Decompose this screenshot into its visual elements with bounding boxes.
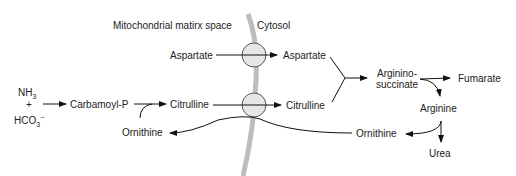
argininosuccinate-line1: Arginino- <box>377 68 417 79</box>
node-carbamoyl-phosphate: Carbamoyl-P <box>70 99 128 110</box>
node-urea: Urea <box>429 148 451 159</box>
hco3-text: HCO <box>14 115 36 126</box>
region-label-matrix: Mitochondrial matirx space <box>113 20 232 31</box>
hco3-subscript: 3 <box>36 121 40 128</box>
node-ornithine-cytosol: Ornithine <box>356 128 397 139</box>
nh3-subscript: 3 <box>32 93 36 100</box>
node-aspartate-cytosol: Aspartate <box>283 50 326 61</box>
hco3-superscript: − <box>40 114 44 121</box>
node-argininosuccinate: Arginino-succinate <box>372 68 422 90</box>
node-hco3: HCO3− <box>14 112 44 130</box>
node-citrulline-matrix: Citrulline <box>170 99 209 110</box>
node-arginine: Arginine <box>420 103 457 114</box>
urea-cycle-diagram: Mitochondrial matirx space Cytosol Aspar… <box>0 0 516 176</box>
node-citrulline-cytosol: Citrulline <box>286 100 325 111</box>
node-fumarate: Fumarate <box>458 73 501 84</box>
node-aspartate-matrix: Aspartate <box>170 50 213 61</box>
node-ornithine-matrix: Ornithine <box>122 127 163 138</box>
plus-sign: + <box>26 99 32 110</box>
nh3-text: NH <box>18 87 32 98</box>
region-label-cytosol: Cytosol <box>257 20 290 31</box>
argininosuccinate-line2: succinate <box>376 79 418 90</box>
